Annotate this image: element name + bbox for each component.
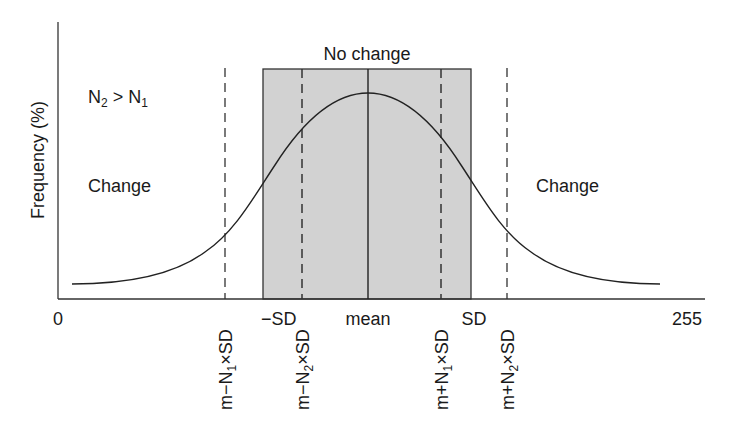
change-right-label: Change xyxy=(536,176,599,196)
svg-text:m−N2×SD: m−N2×SD xyxy=(293,329,316,410)
label-m-minus-n1-sd: m−N1×SD xyxy=(216,329,239,410)
svg-text:m−N1×SD: m−N1×SD xyxy=(216,329,239,410)
x-axis-max-label: 255 xyxy=(672,309,702,329)
no-change-label: No change xyxy=(323,44,410,64)
label-m-minus-n2-sd: m−N2×SD xyxy=(293,329,316,410)
change-left-label: Change xyxy=(88,176,151,196)
y-axis-label: Frequency (%) xyxy=(28,101,48,219)
mean-label: mean xyxy=(345,309,390,329)
svg-text:m+N1×SD: m+N1×SD xyxy=(432,329,455,410)
diagram-canvas: Frequency (%) N2 > N1 No change Change C… xyxy=(0,0,734,438)
condition-label: N2 > N1 xyxy=(88,87,148,110)
label-m-plus-n1-sd: m+N1×SD xyxy=(432,329,455,410)
label-m-plus-n2-sd: m+N2×SD xyxy=(498,329,521,410)
minus-sd-label: −SD xyxy=(261,309,297,329)
svg-text:m+N2×SD: m+N2×SD xyxy=(498,329,521,410)
plus-sd-label: SD xyxy=(461,309,486,329)
no-change-region xyxy=(263,69,471,299)
x-axis-min-label: 0 xyxy=(53,309,63,329)
